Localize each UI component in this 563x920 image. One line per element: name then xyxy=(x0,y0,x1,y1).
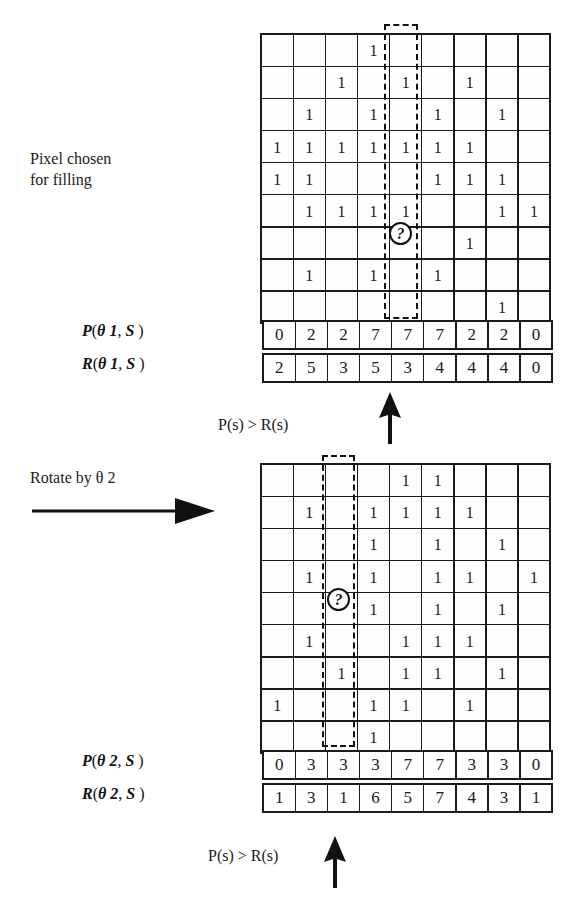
grid-cell[interactable] xyxy=(422,195,453,226)
grid-cell[interactable]: 1 xyxy=(358,561,389,592)
grid-cell[interactable]: 1 xyxy=(455,131,486,162)
grid-bottom-rotation-theta2[interactable]: 1111111111111111111111111111111 xyxy=(260,463,551,754)
grid-cell[interactable] xyxy=(262,593,293,624)
grid-cell[interactable]: 1 xyxy=(294,260,325,291)
grid-top-rotation-theta1[interactable]: 1111111111111111111111111111111 xyxy=(260,33,551,324)
grid-cell[interactable] xyxy=(262,529,293,560)
grid-cell[interactable] xyxy=(390,561,421,592)
grid-cell[interactable] xyxy=(519,690,550,721)
grid-cell[interactable] xyxy=(390,722,421,753)
grid-cell[interactable]: 1 xyxy=(487,163,518,194)
grid-cell[interactable] xyxy=(422,292,453,323)
grid-cell[interactable] xyxy=(262,722,293,753)
grid-cell[interactable] xyxy=(390,593,421,624)
grid-cell[interactable] xyxy=(487,561,518,592)
grid-cell[interactable]: 1 xyxy=(294,131,325,162)
grid-cell[interactable] xyxy=(519,593,550,624)
grid-cell[interactable] xyxy=(262,35,293,66)
grid-cell[interactable] xyxy=(487,690,518,721)
grid-cell[interactable] xyxy=(358,292,389,323)
grid-cell[interactable] xyxy=(262,228,293,259)
grid-cell[interactable] xyxy=(390,260,421,291)
grid-cell[interactable]: 1 xyxy=(358,497,389,528)
grid-cell[interactable] xyxy=(294,658,325,689)
grid-cell[interactable] xyxy=(455,35,486,66)
grid-cell[interactable] xyxy=(326,465,357,496)
grid-cell[interactable] xyxy=(390,35,421,66)
grid-cell[interactable] xyxy=(519,67,550,98)
grid-cell[interactable] xyxy=(519,722,550,753)
grid-cell[interactable]: 1 xyxy=(422,163,453,194)
grid-cell[interactable]: 1 xyxy=(422,561,453,592)
grid-cell[interactable] xyxy=(326,292,357,323)
grid-cell[interactable] xyxy=(455,195,486,226)
grid-cell[interactable] xyxy=(358,658,389,689)
chosen-pixel-marker-top[interactable]: ? xyxy=(389,222,412,245)
grid-cell[interactable] xyxy=(487,260,518,291)
grid-cell[interactable]: 1 xyxy=(358,195,389,226)
grid-cell[interactable] xyxy=(294,722,325,753)
grid-cell[interactable]: 1 xyxy=(390,131,421,162)
grid-cell[interactable]: 1 xyxy=(294,497,325,528)
grid-cell[interactable]: 1 xyxy=(455,690,486,721)
grid-cell[interactable] xyxy=(519,163,550,194)
grid-cell[interactable]: 1 xyxy=(358,99,389,130)
grid-cell[interactable] xyxy=(487,131,518,162)
grid-cell[interactable]: 1 xyxy=(390,690,421,721)
grid-cell[interactable] xyxy=(422,228,453,259)
grid-cell[interactable] xyxy=(390,529,421,560)
grid-cell[interactable]: 1 xyxy=(262,690,293,721)
grid-cell[interactable] xyxy=(422,690,453,721)
grid-cell[interactable]: 1 xyxy=(390,625,421,656)
grid-cell[interactable]: 1 xyxy=(487,529,518,560)
grid-cell[interactable]: 1 xyxy=(487,593,518,624)
grid-cell[interactable] xyxy=(519,260,550,291)
grid-cell[interactable] xyxy=(455,529,486,560)
grid-cell[interactable]: 1 xyxy=(422,99,453,130)
grid-cell[interactable] xyxy=(487,497,518,528)
grid-cell[interactable] xyxy=(455,99,486,130)
grid-cell[interactable] xyxy=(294,529,325,560)
grid-cell[interactable]: 1 xyxy=(262,163,293,194)
grid-cell[interactable] xyxy=(326,625,357,656)
grid-cell[interactable]: 1 xyxy=(358,722,389,753)
grid-cell[interactable] xyxy=(294,593,325,624)
grid-cell[interactable] xyxy=(455,292,486,323)
grid-cell[interactable]: 1 xyxy=(390,67,421,98)
grid-cell[interactable]: 1 xyxy=(422,131,453,162)
grid-cell[interactable]: 1 xyxy=(294,561,325,592)
grid-cell[interactable]: 1 xyxy=(455,163,486,194)
grid-cell[interactable]: 1 xyxy=(390,465,421,496)
grid-cell[interactable] xyxy=(294,228,325,259)
grid-cell[interactable] xyxy=(519,99,550,130)
grid-cell[interactable] xyxy=(262,561,293,592)
grid-cell[interactable]: 1 xyxy=(358,131,389,162)
grid-cell[interactable]: 1 xyxy=(358,529,389,560)
grid-cell[interactable]: 1 xyxy=(390,195,421,226)
grid-cell[interactable] xyxy=(262,465,293,496)
grid-cell[interactable] xyxy=(487,625,518,656)
grid-cell[interactable] xyxy=(455,593,486,624)
grid-cell[interactable] xyxy=(262,67,293,98)
grid-cell[interactable] xyxy=(519,292,550,323)
grid-cell[interactable] xyxy=(326,260,357,291)
grid-cell[interactable] xyxy=(294,292,325,323)
grid-cell[interactable] xyxy=(519,658,550,689)
grid-cell[interactable] xyxy=(519,529,550,560)
grid-cell[interactable]: 1 xyxy=(262,131,293,162)
grid-cell[interactable] xyxy=(262,497,293,528)
grid-cell[interactable] xyxy=(262,195,293,226)
grid-cell[interactable]: 1 xyxy=(455,497,486,528)
grid-cell[interactable] xyxy=(358,228,389,259)
grid-cell[interactable] xyxy=(487,465,518,496)
grid-cell[interactable]: 1 xyxy=(294,625,325,656)
grid-cell[interactable] xyxy=(455,722,486,753)
grid-cell[interactable]: 1 xyxy=(422,497,453,528)
grid-cell[interactable] xyxy=(294,35,325,66)
grid-cell[interactable]: 1 xyxy=(422,465,453,496)
grid-cell[interactable]: 1 xyxy=(294,195,325,226)
grid-cell[interactable] xyxy=(262,625,293,656)
grid-cell[interactable] xyxy=(358,67,389,98)
grid-cell[interactable] xyxy=(294,690,325,721)
grid-cell[interactable] xyxy=(455,465,486,496)
